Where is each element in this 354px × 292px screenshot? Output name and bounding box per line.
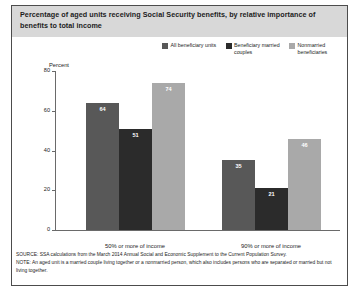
title-band: Percentage of aged units receiving Socia… (12, 6, 347, 37)
bars-layer: 64 51 74 35 21 46 (56, 71, 340, 230)
bar-group1-married: 51 (119, 129, 152, 230)
y-tick-60: 60 (52, 111, 55, 112)
x-category-label-2: 90% or more of income (216, 243, 326, 249)
bar-value-label: 21 (255, 191, 288, 197)
y-tick-label: 80 (44, 67, 50, 73)
bar-group2-married: 21 (255, 188, 288, 230)
y-tick-label: 60 (44, 107, 50, 113)
bar-group1-all: 64 (86, 103, 119, 230)
bar-value-label: 51 (119, 132, 152, 138)
x-category-label-1: 50% or more of income (80, 243, 190, 249)
legend-label: Beneficiary married couples (234, 42, 282, 55)
legend-item-nonmarried-beneficiaries: Nonmarried beneficiaries (289, 42, 350, 55)
bar-value-label: 46 (288, 142, 321, 148)
legend-swatch-icon (162, 43, 168, 49)
source-text: SOURCE: SSA calculations from the March … (16, 251, 343, 258)
page-title: Percentage of aged units receiving Socia… (20, 10, 339, 31)
legend-label: Nonmarried beneficiaries (298, 42, 350, 55)
bar-value-label: 35 (222, 163, 255, 169)
y-tick-40: 40 (52, 151, 55, 152)
bar-group2-nonmarried: 46 (288, 139, 321, 231)
bar-group2-all: 35 (222, 160, 255, 230)
x-axis-line (55, 230, 340, 231)
legend-item-beneficiary-married-couples: Beneficiary married couples (226, 42, 283, 55)
bar-group1-nonmarried: 74 (152, 83, 185, 230)
note-text: NOTE: An aged unit is a married couple l… (16, 259, 343, 274)
y-tick-label: 40 (44, 147, 50, 153)
axis-area: 0 20 40 60 80 64 (55, 71, 340, 231)
legend-label: All beneficiary units (171, 42, 219, 49)
y-tick-20: 20 (52, 190, 55, 191)
figure-frame: Percentage of aged units receiving Socia… (11, 5, 348, 286)
legend-swatch-icon (226, 43, 232, 49)
bar-value-label: 74 (152, 86, 185, 92)
legend-item-all-beneficiary-units: All beneficiary units (162, 42, 219, 49)
figure-footer: SOURCE: SSA calculations from the March … (16, 251, 343, 275)
y-tick-0: 0 (52, 230, 55, 231)
y-axis-title: Percent (49, 62, 69, 68)
chart-screenshot: Percentage of aged units receiving Socia… (0, 0, 354, 292)
legend-swatch-icon (289, 43, 295, 49)
y-tick-80: 80 (52, 71, 55, 72)
bar-value-label: 64 (86, 106, 119, 112)
plot-area: Percent 0 20 40 60 80 (12, 62, 349, 247)
y-tick-label: 20 (44, 186, 50, 192)
chart-legend: All beneficiary units Beneficiary marrie… (162, 42, 347, 64)
y-tick-label: 0 (47, 226, 50, 232)
